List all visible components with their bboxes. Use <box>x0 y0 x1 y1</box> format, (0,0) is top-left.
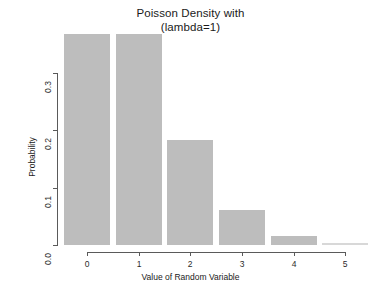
y-tick-label-0.0: 0.0 <box>43 247 53 271</box>
bar-x3 <box>219 210 265 245</box>
x-tick-label-0: 0 <box>75 259 99 269</box>
bar-x2 <box>167 140 213 245</box>
bar-x4 <box>271 236 317 245</box>
x-axis-title: Value of Random Variable <box>0 272 381 282</box>
y-axis-line <box>57 73 58 246</box>
bar-x1 <box>116 34 162 245</box>
plot-area: 0.0 0.1 0.2 0.3 0 1 2 3 4 5 Value of Ran… <box>0 0 381 301</box>
x-tick-label-2: 2 <box>178 259 202 269</box>
x-tick-0 <box>87 252 88 256</box>
x-tick-5 <box>345 252 346 256</box>
y-tick-0.0 <box>53 245 57 246</box>
y-tick-0.1 <box>53 188 57 189</box>
x-tick-label-4: 4 <box>282 259 306 269</box>
x-tick-label-5: 5 <box>333 259 357 269</box>
bar-x5 <box>322 243 368 245</box>
y-tick-0.3 <box>53 73 57 74</box>
poisson-density-chart: Poisson Density with (lambda=1) 0.0 0.1 … <box>0 0 381 301</box>
y-tick-label-0.2: 0.2 <box>43 132 53 156</box>
x-tick-label-3: 3 <box>230 259 254 269</box>
y-tick-label-0.1: 0.1 <box>43 190 53 214</box>
x-tick-3 <box>242 252 243 256</box>
x-tick-4 <box>294 252 295 256</box>
x-tick-label-1: 1 <box>127 259 151 269</box>
bar-x0 <box>64 34 110 245</box>
x-axis-line <box>87 252 345 253</box>
x-tick-1 <box>139 252 140 256</box>
x-tick-2 <box>190 252 191 256</box>
y-tick-0.2 <box>53 130 57 131</box>
y-axis-title: Probability <box>27 122 37 192</box>
y-tick-label-0.3: 0.3 <box>43 75 53 99</box>
